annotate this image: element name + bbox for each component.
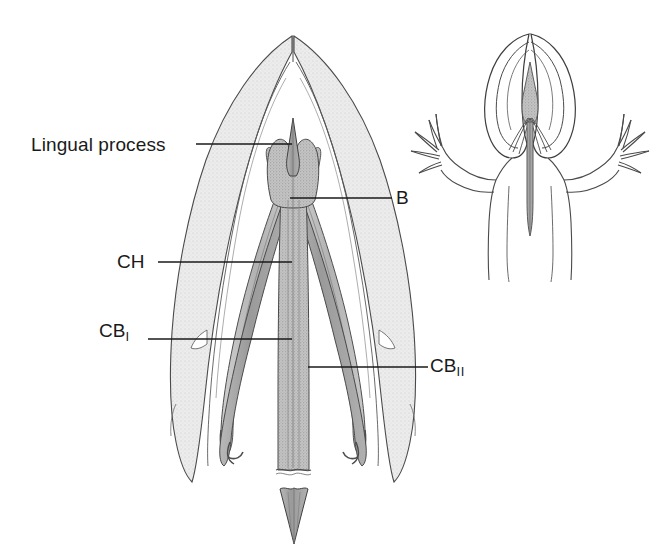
label-lingual-process: Lingual process bbox=[31, 134, 166, 156]
label-b: B bbox=[396, 187, 409, 209]
forelimb-left bbox=[411, 114, 496, 192]
label-cb-one-subscript: I bbox=[126, 329, 130, 344]
label-ch: CH bbox=[117, 251, 145, 273]
label-cb-two: CBII bbox=[430, 355, 465, 377]
label-cb-one: CBI bbox=[99, 320, 130, 342]
label-cb-two-base: CB bbox=[430, 355, 457, 376]
anatomical-illustration bbox=[0, 0, 666, 550]
trunk-right-outline bbox=[548, 158, 572, 280]
distal-shaft-tip bbox=[280, 488, 308, 544]
whole-animal-inset bbox=[411, 34, 649, 282]
basibranchial-and-lingual-process bbox=[266, 118, 321, 475]
hyobranchial-apparatus-main bbox=[148, 36, 428, 544]
forelimb-right bbox=[564, 114, 649, 192]
label-cb-two-subscript: II bbox=[457, 364, 465, 379]
trunk-left-outline bbox=[488, 158, 512, 280]
figure-canvas: Lingual process CH CBI B CBII bbox=[0, 0, 666, 550]
label-cb-one-base: CB bbox=[99, 320, 126, 341]
